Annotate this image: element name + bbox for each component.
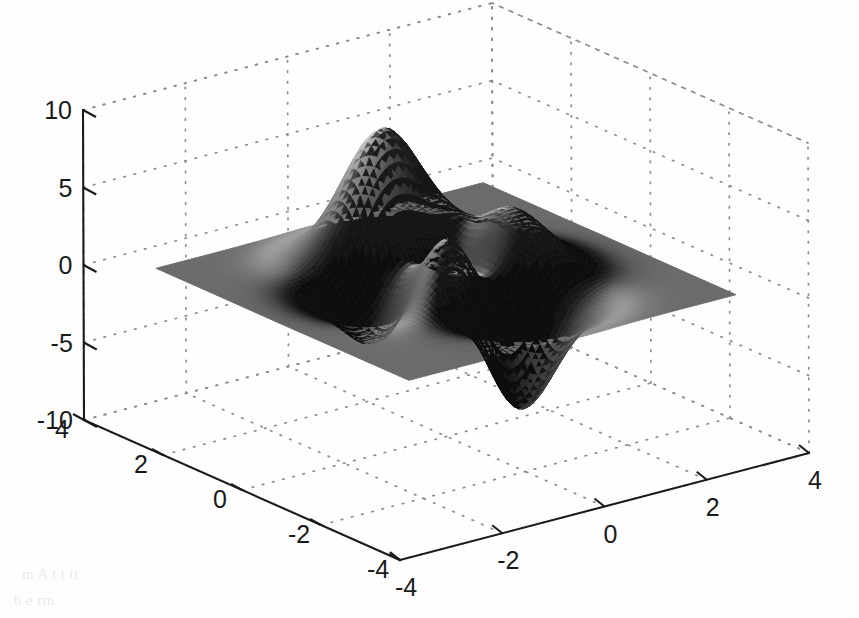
x-tick-mark [492, 525, 502, 533]
y-tick-mark [73, 414, 84, 420]
surface-plot-figure: 420-2-4-4-20241050-5-10 m A t t tt h e r… [0, 0, 859, 618]
tick-label: 10 [44, 96, 72, 124]
tick-label: 0 [59, 251, 73, 279]
plot-canvas: 420-2-4-4-20241050-5-10 [0, 0, 859, 618]
surface-mesh [156, 128, 736, 409]
x-tick-mark [799, 445, 809, 453]
tick-label: 0 [604, 520, 618, 548]
tick-label: -5 [51, 329, 73, 357]
tick-label: -4 [367, 555, 389, 583]
z-tick-mark [84, 343, 97, 350]
z-tick-mark [83, 110, 96, 117]
x-tick-mark [697, 472, 707, 480]
tick-label: 0 [213, 485, 227, 513]
z-tick-mark [84, 265, 97, 272]
z-tick-mark [83, 188, 96, 195]
z-tick-mark [84, 420, 97, 427]
tick-label: -2 [288, 520, 310, 548]
tick-label: -4 [395, 573, 417, 601]
tick-label: -10 [37, 406, 73, 434]
tick-label: 5 [58, 174, 72, 202]
tick-label: -2 [497, 546, 519, 574]
tick-label: 2 [134, 450, 148, 478]
tick-label: 4 [808, 466, 822, 494]
tick-label: 2 [706, 493, 720, 521]
x-tick-mark [595, 499, 605, 507]
